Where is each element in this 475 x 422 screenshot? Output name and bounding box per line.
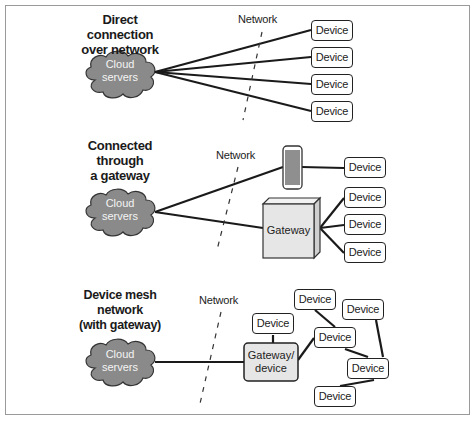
panel1-title-line1: Direct connection — [70, 12, 170, 42]
panel3-title-line2: network — [70, 303, 170, 318]
gateway-device-label: Gateway/ device — [244, 349, 298, 375]
network-label-1: Network — [238, 13, 277, 25]
panel3-title-line1: Device mesh — [70, 288, 170, 303]
cloud-label-line: Cloud — [84, 348, 156, 361]
device-node: Device — [344, 187, 386, 208]
device-node: Device — [311, 101, 353, 122]
cloud-label-line: servers — [84, 71, 156, 84]
device-node: Device — [311, 47, 353, 68]
device-node: Device — [347, 358, 389, 379]
device-node: Device — [252, 313, 294, 334]
network-label-2: Network — [216, 149, 255, 161]
device-node: Device — [311, 20, 353, 41]
panel3-title-line3: (with gateway) — [70, 318, 170, 333]
panel2-title-line2: through — [70, 153, 170, 168]
cloud-label-line: Cloud — [84, 58, 156, 71]
cloud-label-1: Cloud servers — [84, 58, 156, 84]
panel1-links — [155, 30, 311, 111]
device-node: Device — [344, 242, 386, 263]
phone-icon — [283, 146, 302, 189]
network-label-3: Network — [199, 294, 238, 306]
device-node: Device — [314, 386, 356, 407]
gateway-device-label-line: Gateway/ — [244, 349, 298, 362]
cloud-label-3: Cloud servers — [84, 348, 156, 374]
cloud-label-line: servers — [84, 210, 156, 223]
panel1-title-line2: over network — [70, 42, 170, 57]
cloud-label-2: Cloud servers — [84, 197, 156, 223]
device-node: Device — [344, 214, 386, 235]
device-node: Device — [344, 157, 386, 178]
panel2-title-line1: Connected — [70, 138, 170, 153]
cloud-label-line: servers — [84, 361, 156, 374]
diagram-connections — [0, 0, 475, 422]
network-boundary-3 — [199, 312, 221, 408]
network-boundary-2 — [217, 167, 238, 250]
panel3-title: Device mesh network (with gateway) — [70, 288, 170, 333]
device-node: Device — [294, 289, 336, 310]
device-node: Device — [311, 74, 353, 95]
panel1-title: Direct connection over network — [70, 12, 170, 57]
device-node: Device — [342, 299, 384, 320]
cloud-label-line: Cloud — [84, 197, 156, 210]
panel2-title: Connected through a gateway — [70, 138, 170, 183]
gateway-device-label-line: device — [244, 362, 298, 375]
gateway-label: Gateway — [263, 224, 314, 237]
device-node: Device — [314, 327, 356, 348]
panel2-title-line3: a gateway — [70, 168, 170, 183]
